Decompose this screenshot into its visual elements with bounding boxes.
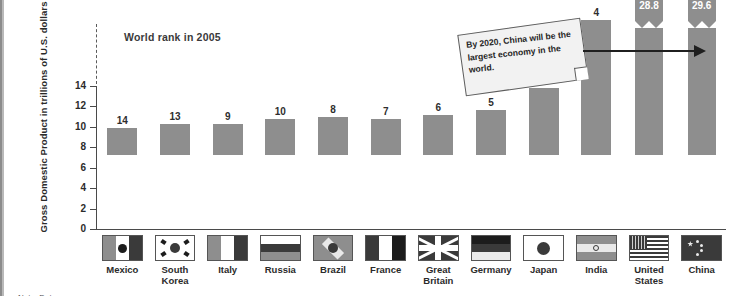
bar-rank-label: 10 [265, 106, 295, 117]
y-tick-label-2: 2 [58, 203, 86, 214]
y-tick-label-0: 0 [58, 223, 86, 234]
country-cell: Italy [201, 231, 254, 275]
country-cell: Brazil [307, 231, 360, 275]
bar-south-korea [160, 124, 190, 155]
country-label: SouthKorea [149, 264, 202, 286]
bar-series: 141391087653428.8129.62 [96, 0, 734, 229]
country-cell: Germany [465, 231, 518, 275]
chart-canvas: Gross Domestic Product in trillions of U… [0, 0, 734, 303]
y-axis-label: Gross Domestic Product in trillions of U… [38, 3, 49, 233]
flag-great-britain-icon [418, 235, 459, 261]
bar-column: 29.62 [688, 0, 716, 155]
flag-india-icon [576, 235, 617, 261]
country-cell: France [359, 231, 412, 275]
country-label: Germany [465, 264, 518, 275]
country-cell: Mexico [96, 231, 149, 275]
flag-russia-icon [260, 235, 301, 261]
country-label: Japan [517, 264, 570, 275]
bar-column: 13 [160, 124, 190, 155]
bar-india [581, 20, 611, 155]
bar-column: 8 [318, 117, 348, 155]
country-cell: UnitedStates [623, 231, 676, 286]
flag-brazil-icon [313, 235, 354, 261]
bar-value-label: 29.6 [688, 0, 716, 11]
bar-rank-label: 6 [423, 102, 453, 113]
bar-rank-label: 7 [371, 106, 401, 117]
bar-axis-break-zigzag [635, 16, 663, 29]
bar-column: 5 [476, 110, 506, 155]
bar-rank-label: 13 [160, 111, 190, 122]
country-label: UnitedStates [623, 264, 676, 286]
y-tick-label-4: 4 [58, 182, 86, 193]
page-gutter [0, 0, 4, 296]
bar-great-britain [423, 115, 453, 155]
bar-column: 4 [581, 20, 611, 155]
flag-japan-icon [523, 235, 564, 261]
bar-germany [476, 110, 506, 155]
page-gutter-edge [0, 0, 2, 296]
flag-china-icon [681, 235, 722, 261]
country-cell: GreatBritain [412, 231, 465, 286]
bar-rank-label: 8 [318, 104, 348, 115]
flag-italy-icon [207, 235, 248, 261]
bar-japan [529, 88, 559, 155]
flag-germany-icon [471, 235, 512, 261]
country-cell: SouthKorea [149, 231, 202, 286]
annotation-arrow-head-icon [694, 45, 706, 57]
bar-rank-label: 9 [213, 111, 243, 122]
country-cell: Japan [517, 231, 570, 275]
bar-column: 6 [423, 115, 453, 155]
bar-axis-break-zigzag [688, 16, 716, 29]
bar-mexico [107, 128, 137, 155]
country-cell: India [570, 231, 623, 275]
country-cell: China [675, 231, 728, 275]
country-label: France [359, 264, 412, 275]
y-tick-label-10: 10 [58, 121, 86, 132]
x-axis-line [96, 229, 726, 230]
flag-united-states-icon [629, 235, 670, 261]
callout-fold-corner [574, 66, 589, 81]
bar-russia [265, 119, 295, 155]
y-tick-label-8: 8 [58, 141, 86, 152]
country-label: Brazil [307, 264, 360, 275]
flag-france-icon [365, 235, 406, 261]
bar-column: 7 [371, 119, 401, 155]
bar-value-label: 28.8 [635, 0, 663, 11]
bar-column: 3 [529, 88, 559, 155]
bar-column: 9 [213, 124, 243, 155]
bar-italy [213, 124, 243, 155]
country-label-row: Mexico SouthKorea Italy Russia Brazil Fr… [96, 231, 734, 301]
country-label: GreatBritain [412, 264, 465, 286]
country-label: China [675, 264, 728, 275]
bar-column: 28.81 [635, 0, 663, 155]
flag-south-korea-icon [155, 235, 196, 261]
y-tick-label-12: 12 [58, 100, 86, 111]
bar-rank-label: 14 [107, 115, 137, 126]
bar-france [371, 119, 401, 155]
country-label: Italy [201, 264, 254, 275]
y-tick-label-14: 14 [58, 80, 86, 91]
country-label: Mexico [96, 264, 149, 275]
bar-rank-label: 5 [476, 97, 506, 108]
page-bottom-mask [0, 296, 734, 303]
flag-mexico-icon [102, 235, 143, 261]
country-label: India [570, 264, 623, 275]
bar-column: 14 [107, 128, 137, 155]
country-label: Russia [254, 264, 307, 275]
bar-brazil [318, 117, 348, 155]
annotation-callout-text: By 2020, China will be the largest econo… [466, 27, 580, 76]
y-tick-label-6: 6 [58, 162, 86, 173]
bar-column: 10 [265, 119, 295, 155]
annotation-arrow-line [583, 50, 698, 52]
y-tick-0 [90, 229, 96, 230]
country-cell: Russia [254, 231, 307, 275]
bar-rank-label: 4 [581, 7, 611, 18]
